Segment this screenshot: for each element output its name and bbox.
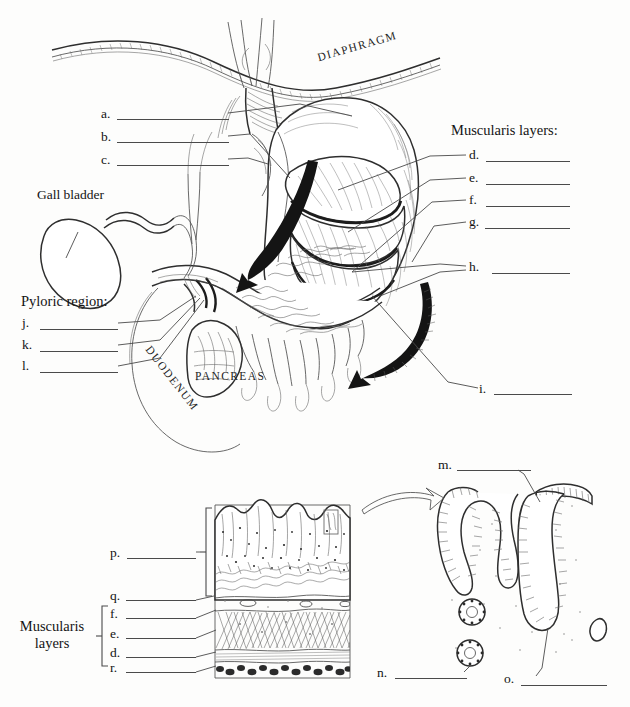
blank-n-key: n. bbox=[377, 666, 387, 680]
blank-n-line[interactable] bbox=[395, 678, 467, 679]
blank-d-line-upper[interactable] bbox=[486, 161, 570, 162]
blank-h-line[interactable] bbox=[492, 273, 570, 274]
muscularis-layers-line2: layers bbox=[35, 635, 70, 651]
blank-j-line[interactable] bbox=[40, 329, 118, 330]
label-muscularis-layers-lower: Muscularis layers bbox=[12, 618, 92, 651]
blank-d-key-lower: d. bbox=[110, 646, 120, 660]
blank-p-key: p. bbox=[110, 546, 120, 560]
blank-i-key: i. bbox=[479, 382, 486, 396]
blank-r-line[interactable] bbox=[126, 672, 196, 673]
blank-g-line-upper[interactable] bbox=[485, 228, 570, 229]
blank-m-line[interactable] bbox=[457, 470, 531, 471]
blank-q-line[interactable] bbox=[126, 600, 196, 601]
blank-r-key: r. bbox=[110, 661, 117, 675]
blank-o-line[interactable] bbox=[521, 685, 607, 686]
blank-e-key-lower: e. bbox=[110, 627, 119, 641]
blank-m-key: m. bbox=[438, 458, 452, 472]
anatomical-illustration bbox=[0, 0, 630, 707]
blank-e-line-lower[interactable] bbox=[126, 638, 196, 639]
blank-h-key: h. bbox=[469, 260, 479, 274]
blank-g-key-upper: g. bbox=[469, 215, 479, 229]
mucosa-bracket bbox=[200, 508, 212, 596]
blank-o-key: o. bbox=[504, 672, 514, 686]
blank-f-key-lower: f. bbox=[110, 607, 118, 621]
blank-j-key: j. bbox=[22, 316, 29, 330]
blank-d-key-upper: d. bbox=[469, 148, 479, 162]
organ-caption-duodenum: DUODENUM bbox=[133, 372, 211, 384]
blank-a-line[interactable] bbox=[117, 119, 229, 120]
muscularis-layers-bracket bbox=[94, 604, 110, 668]
blank-c-line[interactable] bbox=[117, 165, 229, 166]
blank-l-key: l. bbox=[22, 359, 29, 373]
blank-q-key: q. bbox=[110, 589, 120, 603]
blank-f-line-lower[interactable] bbox=[126, 618, 196, 619]
figure-page: DIAPHRAGM PANCREAS DUODENUM Gall bladder… bbox=[0, 0, 630, 707]
blank-l-line[interactable] bbox=[40, 372, 118, 373]
label-gall-bladder: Gall bladder bbox=[37, 188, 104, 202]
blank-f-key-upper: f. bbox=[469, 193, 477, 207]
blank-i-line[interactable] bbox=[494, 394, 572, 395]
magnification-arrow bbox=[362, 488, 444, 514]
muscularis-layers-line1: Muscularis bbox=[20, 618, 84, 634]
heading-muscularis-layers-upper: Muscularis layers: bbox=[451, 123, 558, 138]
heading-pyloric-region: Pyloric region: bbox=[21, 294, 108, 309]
organ-caption-diaphragm: DIAPHRAGM bbox=[316, 40, 398, 52]
blank-e-line-upper[interactable] bbox=[486, 184, 570, 185]
blank-a-key: a. bbox=[101, 107, 110, 121]
blank-k-key: k. bbox=[22, 338, 32, 352]
gastric-gland-detail bbox=[362, 470, 606, 676]
blank-b-key: b. bbox=[101, 130, 111, 144]
blank-c-key: c. bbox=[101, 153, 110, 167]
blank-f-line-upper[interactable] bbox=[486, 206, 570, 207]
blank-e-key-upper: e. bbox=[469, 171, 478, 185]
blank-k-line[interactable] bbox=[40, 351, 118, 352]
gastric-wall-section bbox=[215, 500, 351, 678]
blank-d-line-lower[interactable] bbox=[126, 657, 196, 658]
blank-b-line[interactable] bbox=[117, 142, 229, 143]
blank-p-line[interactable] bbox=[127, 558, 196, 559]
